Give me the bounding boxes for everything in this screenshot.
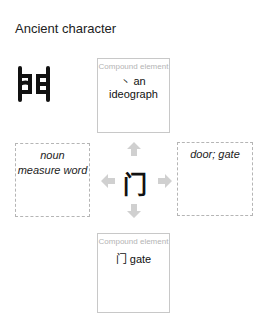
compound-value: 丶 an ideograph [98,75,169,100]
compound-caption: Compound element [98,62,169,71]
pos-measure-word: measure word [16,163,89,178]
ancient-character-title: Ancient character [15,20,116,37]
compound-glyph: 门 [116,253,127,265]
compound-glyph: 丶 [121,77,130,87]
bottom-compound-box: Compound element 门 gate [97,233,170,313]
arrow-up-icon [127,142,141,156]
part-of-speech-box: noun measure word [15,143,90,217]
meaning-box: door; gate [177,142,253,216]
compound-caption: Compound element [98,237,169,246]
arrow-right-icon [158,174,172,188]
arrow-left-icon [101,174,115,188]
compound-meaning: an ideograph [109,75,158,100]
meaning-text: door; gate [178,147,252,162]
ancient-character-glyph [16,62,52,102]
compound-value: 门 gate [98,250,169,266]
pos-noun: noun [16,148,89,163]
arrow-down-icon [127,204,141,218]
top-compound-box: Compound element 丶 an ideograph [97,58,170,133]
compound-meaning: gate [130,253,151,265]
center-character: 门 [123,165,147,200]
title-text: Ancient character [15,21,116,36]
